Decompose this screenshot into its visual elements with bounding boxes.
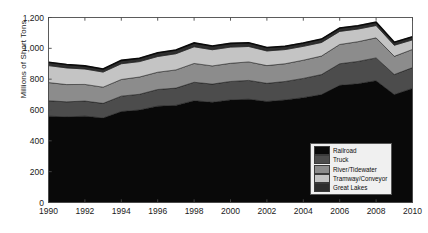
legend-label: Truck bbox=[333, 156, 349, 163]
legend-swatch-great-lakes bbox=[314, 183, 330, 192]
legend-label: Great Lakes bbox=[333, 184, 367, 191]
legend-item: River/Tidewater bbox=[314, 165, 387, 174]
stacked-area-chart: Millions of Short Tons 02004006008001,00… bbox=[0, 0, 428, 233]
legend-swatch-truck bbox=[314, 155, 330, 164]
legend-label: River/Tidewater bbox=[333, 166, 377, 173]
plot-area bbox=[0, 0, 428, 233]
legend-item: Railroad bbox=[314, 147, 387, 156]
legend-item: Great Lakes bbox=[314, 183, 387, 192]
legend-label: Tramway/Conveyor bbox=[333, 175, 387, 182]
legend-item: Tramway/Conveyor bbox=[314, 174, 387, 183]
chart-legend: RailroadTruckRiver/TidewaterTramway/Conv… bbox=[310, 143, 392, 195]
legend-item: Truck bbox=[314, 156, 387, 165]
legend-swatch-tramway-conveyor bbox=[314, 174, 330, 183]
legend-label: Railroad bbox=[333, 147, 356, 154]
legend-swatch-railroad bbox=[314, 146, 330, 155]
legend-swatch-river-tidewater bbox=[314, 165, 330, 174]
